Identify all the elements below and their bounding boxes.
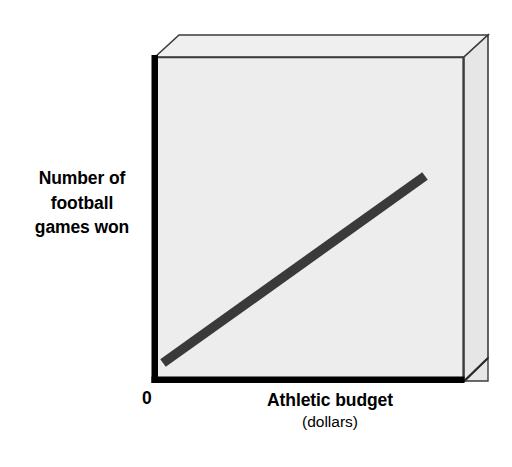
- box-right-face: [464, 35, 488, 381]
- x-axis-label-units: (dollars): [190, 411, 470, 432]
- x-axis-line: [152, 377, 465, 384]
- y-axis-label-line-3: games won: [6, 215, 158, 240]
- y-axis-label-line-2: football: [6, 191, 158, 216]
- y-axis-label: Number of football games won: [6, 166, 158, 240]
- x-axis-label-main: Athletic budget: [190, 389, 470, 411]
- figure-canvas: Number of football games won 0 Athletic …: [0, 0, 512, 467]
- y-axis-label-line-1: Number of: [6, 166, 158, 191]
- box-top-face: [155, 35, 488, 57]
- x-axis-label: Athletic budget (dollars): [190, 389, 470, 432]
- origin-tick-label: 0: [142, 388, 152, 408]
